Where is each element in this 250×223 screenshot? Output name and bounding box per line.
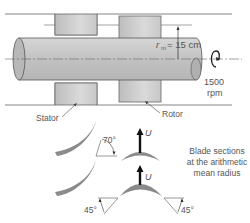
blade-caption-line1: Blade sections [186,146,248,157]
stator-label: Stator [36,113,59,123]
turbomachine-diagram: r m = 15 cm 1500 rpm Stator Rotor 70° U [0,0,250,223]
velocity-label-top: U [145,128,152,138]
rotor-leader [146,102,160,113]
speed-value: 1500 [204,77,224,87]
speed-unit: rpm [207,88,223,98]
rotor-angle-right-label: 45° [181,205,194,215]
velocity-label-bottom: U [145,172,152,182]
radius-subscript: m [161,45,166,51]
stator-blade-sections [55,121,96,196]
velocity-arrow-bottom-icon [137,165,144,185]
velocity-arrow-top-icon [137,128,144,153]
stator-angle-label: 70° [103,135,116,145]
rotor-label: Rotor [162,109,183,119]
blade-caption: Blade sections at the arithmetic mean ra… [186,146,248,179]
blade-caption-line3: mean radius [186,168,248,179]
blade-caption-line2: at the arithmetic [186,157,248,168]
rotor-angle-left-45 [98,198,118,214]
rotor-angle-left-label: 45° [84,205,97,215]
stator-leader [62,104,76,117]
radius-label: = 15 cm [167,39,201,50]
